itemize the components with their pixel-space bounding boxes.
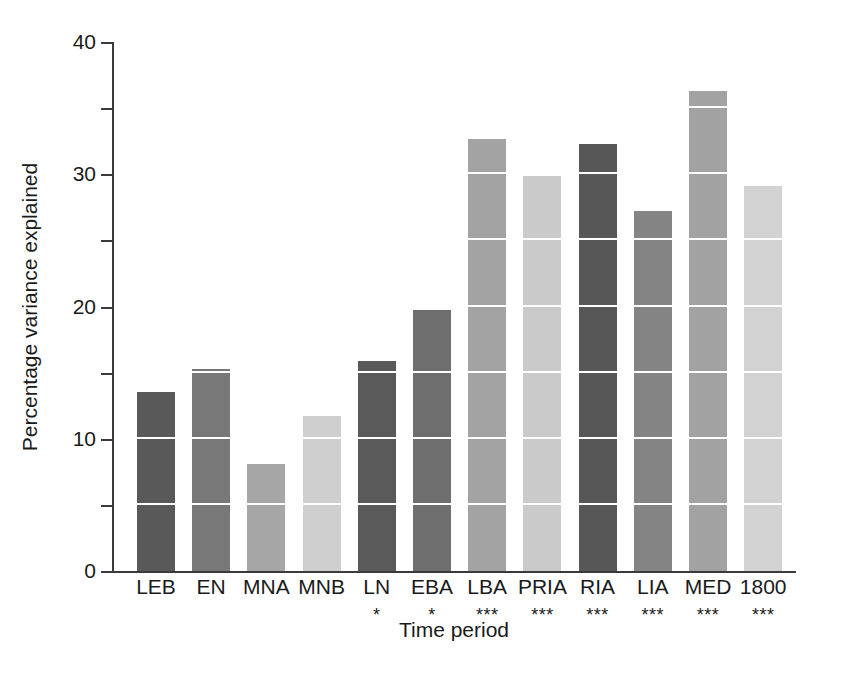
x-tick-label: PRIA <box>515 575 569 599</box>
bar-gridline <box>579 172 617 174</box>
x-tick-label: MNA <box>239 575 293 599</box>
x-tick-label: 1800 <box>736 575 790 599</box>
bar-gridline <box>413 503 451 505</box>
bar-gridline <box>523 238 561 240</box>
bar-gridline <box>523 503 561 505</box>
x-tick-label: LEB <box>129 575 183 599</box>
plot-area: 010203040 <box>112 42 796 571</box>
caption-clipped-edge <box>30 683 810 687</box>
bar-gridline <box>358 503 396 505</box>
y-tick-mark <box>101 42 112 44</box>
bar-gridline <box>413 371 451 373</box>
bar-gridline <box>634 503 672 505</box>
bar <box>137 392 175 571</box>
bars-group <box>112 42 796 571</box>
bar-gridline <box>744 503 782 505</box>
y-tick-label: 10 <box>73 427 96 451</box>
bar <box>634 211 672 571</box>
x-tick-label: MED <box>681 575 735 599</box>
bar-gridline <box>634 305 672 307</box>
y-tick-label: 0 <box>84 559 96 583</box>
y-axis-title-text: Percentage variance explained <box>18 162 42 450</box>
bar-gridline <box>523 305 561 307</box>
x-tick-label: LIA <box>626 575 680 599</box>
bar-gridline <box>523 371 561 373</box>
bar-gridline <box>634 437 672 439</box>
bar-gridline <box>579 305 617 307</box>
bar <box>358 361 396 571</box>
bar <box>247 464 285 571</box>
bar-gridline <box>689 238 727 240</box>
x-axis-line <box>112 571 796 573</box>
bar-gridline <box>634 371 672 373</box>
x-tick-label: LN <box>350 575 404 599</box>
bar-gridline <box>689 305 727 307</box>
bar <box>468 139 506 571</box>
bar-gridline <box>689 503 727 505</box>
bar <box>579 144 617 571</box>
bar-gridline <box>689 437 727 439</box>
bar-gridline <box>579 371 617 373</box>
bar-gridline <box>468 437 506 439</box>
x-tick-label: EN <box>184 575 238 599</box>
bar-gridline <box>192 503 230 505</box>
x-tick-label: LBA <box>460 575 514 599</box>
bar-gridline <box>468 305 506 307</box>
bar <box>413 310 451 571</box>
y-tick-mark <box>101 439 112 441</box>
bar-gridline <box>468 172 506 174</box>
bar-gridline <box>303 437 341 439</box>
bar-gridline <box>579 437 617 439</box>
bar-gridline <box>192 437 230 439</box>
bar-gridline <box>744 437 782 439</box>
y-tick-mark <box>101 373 112 375</box>
y-tick-label: 20 <box>73 295 96 319</box>
bar-gridline <box>744 371 782 373</box>
bar-gridline <box>137 503 175 505</box>
bar-gridline <box>137 437 175 439</box>
y-tick-mark <box>101 240 112 242</box>
bar <box>192 369 230 571</box>
bar <box>303 416 341 571</box>
bar-gridline <box>689 172 727 174</box>
bar <box>744 186 782 571</box>
bar-gridline <box>689 106 727 108</box>
bar-gridline <box>468 238 506 240</box>
y-tick-mark <box>101 505 112 507</box>
x-axis-title: Time period <box>112 618 796 642</box>
y-tick-mark <box>101 174 112 176</box>
y-axis-title: Percentage variance explained <box>14 42 46 571</box>
y-tick-label: 30 <box>73 162 96 186</box>
bar-gridline <box>358 437 396 439</box>
x-tick-label: EBA <box>405 575 459 599</box>
bar-gridline <box>523 437 561 439</box>
figure-bar-chart: Percentage variance explained 010203040 … <box>0 0 842 687</box>
x-tick-label: MNB <box>295 575 349 599</box>
bar-gridline <box>247 503 285 505</box>
y-tick-mark <box>101 307 112 309</box>
bar-gridline <box>413 437 451 439</box>
bar-gridline <box>358 371 396 373</box>
bar-gridline <box>689 371 727 373</box>
y-tick-label: 40 <box>73 30 96 54</box>
bar-gridline <box>744 238 782 240</box>
y-tick-mark <box>101 571 112 573</box>
y-tick-mark <box>101 108 112 110</box>
bar-gridline <box>579 503 617 505</box>
bar <box>689 91 727 571</box>
bar-gridline <box>579 238 617 240</box>
bar-gridline <box>303 503 341 505</box>
x-tick-label: RIA <box>571 575 625 599</box>
bar-gridline <box>468 371 506 373</box>
bar-gridline <box>744 305 782 307</box>
bar-gridline <box>634 238 672 240</box>
bar-gridline <box>192 371 230 373</box>
bar-gridline <box>468 503 506 505</box>
bar <box>523 176 561 571</box>
